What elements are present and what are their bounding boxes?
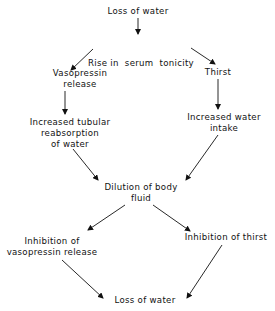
node-text-line-2: reabsorption xyxy=(30,128,111,139)
node-vasopressin-release: Vasopressin release xyxy=(53,68,107,90)
node-text-line-1: Increased tubular xyxy=(30,117,111,128)
diagram-canvas: Loss of water Rise in serum tonicity Vas… xyxy=(0,0,275,311)
node-text: Loss of water xyxy=(108,6,169,17)
node-text-line-2: vasopressin release xyxy=(7,247,98,258)
arrow-inhib-thirst-to-loss xyxy=(187,245,222,298)
node-inhibition-of-vasopressin-release: Inhibition of vasopressin release xyxy=(7,236,98,258)
node-text-line-2: fluid xyxy=(104,193,177,204)
arrow-inhib-vaso-to-loss xyxy=(62,260,103,298)
node-increased-tubular-reabsorption: Increased tubular reabsorption of water xyxy=(30,117,111,150)
node-loss-of-water-top: Loss of water xyxy=(108,6,169,17)
node-text-line-2: intake xyxy=(187,123,261,134)
node-text-line-1: Inhibition of xyxy=(7,236,98,247)
node-text: Inhibition of thirst xyxy=(185,232,267,243)
node-inhibition-of-thirst: Inhibition of thirst xyxy=(185,232,267,243)
arrow-intake-to-dilution xyxy=(186,135,218,180)
node-text-line-1: Increased water xyxy=(187,112,261,123)
node-loss-of-water-bottom: Loss of water xyxy=(115,295,176,306)
arrow-reabsorption-to-dilution xyxy=(73,149,98,180)
node-dilution-of-body-fluid: Dilution of body fluid xyxy=(104,182,177,204)
node-text-line-2: release xyxy=(53,79,107,90)
node-increased-water-intake: Increased water intake xyxy=(187,112,261,134)
node-text: Loss of water xyxy=(115,295,176,306)
arrow-rise-to-thirst xyxy=(191,48,215,64)
node-text: Thirst xyxy=(205,67,231,78)
arrow-dilution-to-inhib-thirst xyxy=(153,205,190,231)
node-text-line-3: of water xyxy=(30,139,111,150)
node-text-line-1: Vasopressin xyxy=(53,68,107,79)
node-thirst: Thirst xyxy=(205,67,231,78)
arrow-dilution-to-inhib-vaso xyxy=(88,205,125,230)
node-text-line-1: Dilution of body xyxy=(104,182,177,193)
